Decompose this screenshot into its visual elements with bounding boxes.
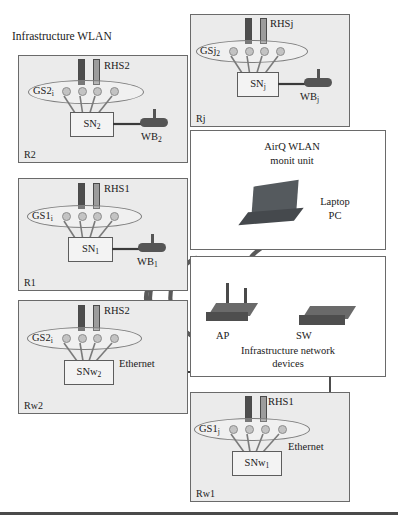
sn-to-wb-link-r2: [113, 120, 143, 128]
sn-label-rw2: SNw2: [77, 366, 102, 379]
wb-label-r1: WB1: [137, 256, 158, 269]
gs-label-r2: GS2i: [33, 85, 54, 98]
gs-label-rj: GSj2: [200, 45, 220, 58]
rhs-label-rw2: RHS2: [104, 305, 130, 317]
sw-front-face: [299, 315, 345, 325]
gs-label-rw1: GS1j: [199, 423, 220, 436]
sn-label-r1: SN1: [82, 243, 99, 256]
sensor-node-r2[interactable]: SN2: [70, 112, 114, 137]
page-title: Infrastructure WLAN: [12, 30, 112, 42]
sn-to-wb-link-rj: [278, 80, 306, 88]
monitor-unit-title-line1: AirQ WLAN: [232, 141, 352, 153]
monitor-unit-title-line2: monit unit: [232, 155, 352, 167]
wireless-bridge-r2[interactable]: [140, 109, 170, 129]
laptop-icon: [245, 183, 305, 229]
wb-label-r2: WB2: [141, 131, 162, 144]
bottom-divider: [0, 512, 398, 515]
rhs-label-rw1: RHS1: [268, 396, 294, 408]
ethernet-label-rw2: Ethernet: [119, 358, 155, 370]
sn-label-rj: SNj: [250, 78, 266, 91]
wb-body: [304, 78, 332, 87]
wb-body: [140, 118, 168, 127]
laptop-label-line2: PC: [305, 210, 365, 222]
gs-label-r1: GS1i: [32, 210, 53, 223]
room-label-rw1: Rw1: [196, 488, 215, 499]
rhs-label-r1: RHS1: [104, 183, 130, 195]
rhs-label-r2: RHS2: [104, 60, 130, 72]
wb-label-rj: WBj: [300, 91, 319, 104]
room-label-r1: R1: [24, 277, 36, 288]
switch-icon[interactable]: [306, 306, 358, 330]
sn-label-r2: SN2: [83, 118, 100, 131]
network-devices-caption-line1: Infrastructure network: [196, 345, 380, 357]
room-label-r2: R2: [24, 149, 36, 160]
sensor-node-r1[interactable]: SN1: [68, 237, 113, 262]
access-point-icon[interactable]: [212, 283, 260, 323]
sensor-node-rw1[interactable]: SNw1: [232, 451, 282, 476]
laptop-label-line1: Laptop: [305, 196, 365, 208]
gs-label-rw2: GS2i: [32, 332, 53, 345]
ap-label: AP: [216, 330, 229, 342]
ethernet-label-rw1: Ethernet: [288, 441, 324, 453]
wireless-bridge-r1[interactable]: [138, 234, 168, 254]
room-label-rj: Rj: [196, 113, 206, 124]
network-devices-caption-line2: devices: [196, 358, 380, 370]
laptop-base: [238, 208, 303, 225]
wb-body: [138, 243, 166, 252]
sensor-node-rj[interactable]: SNj: [237, 72, 279, 97]
sensor-node-rw2[interactable]: SNw2: [64, 360, 114, 385]
room-label-rw2: Rw2: [24, 400, 43, 411]
rhs-label-rj: RHSj: [270, 18, 293, 30]
sn-to-wb-link-r1: [112, 245, 140, 253]
sw-label: SW: [296, 330, 312, 342]
diagram-canvas: Infrastructure WLAN R2 RHS2 GS2i SN2 WB2…: [0, 0, 398, 525]
sn-label-rw1: SNw1: [245, 457, 270, 470]
ap-front-face: [206, 312, 248, 321]
antenna-icon: [226, 283, 229, 304]
wireless-bridge-rj[interactable]: [304, 69, 334, 89]
